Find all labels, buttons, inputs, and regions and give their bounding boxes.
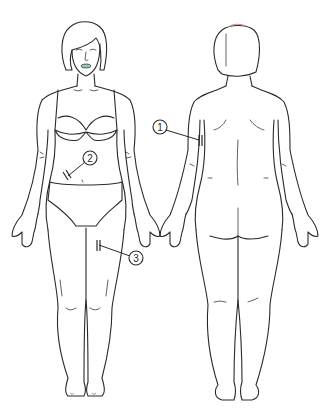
front-leg-left [48, 228, 86, 396]
back-elbow-marks [190, 164, 286, 166]
callout-2-number: 2 [87, 153, 93, 164]
back-knee-left [214, 301, 226, 302]
front-elbow-left [40, 152, 44, 158]
front-leg-right [86, 230, 124, 396]
back-neck [226, 76, 252, 86]
back-figure [160, 24, 318, 400]
injection-site-diagram: 1 2 3 [0, 0, 327, 417]
front-toes-left [70, 393, 74, 395]
front-knee-right [90, 308, 100, 310]
callout-2: 2 [63, 151, 97, 180]
back-spine [237, 140, 238, 185]
back-leg-right [238, 230, 282, 400]
back-shoulder-blade-left [214, 120, 226, 130]
front-figure [12, 22, 160, 396]
front-nose [85, 52, 88, 61]
back-body-right [252, 86, 318, 247]
front-thigh-contour [60, 280, 108, 296]
back-leg-left [196, 230, 238, 400]
callout-3-number: 3 [133, 253, 139, 264]
front-elbow-right [126, 152, 131, 158]
front-toes-right [92, 393, 96, 395]
front-bra [55, 90, 117, 141]
injection-marker-2-icon [63, 170, 71, 180]
front-underwear [48, 182, 122, 226]
front-navel [82, 180, 83, 182]
injection-marker-1-icon [199, 135, 202, 146]
back-knee-right [248, 298, 258, 302]
back-hair [214, 26, 260, 77]
front-knee-left [66, 308, 76, 310]
callout-3-leader [99, 245, 130, 256]
front-eye-right [90, 49, 96, 50]
callout-2-leader [68, 162, 85, 176]
front-eye-left [76, 49, 82, 50]
back-buttocks [210, 236, 268, 239]
injection-marker-3-icon [97, 240, 100, 251]
front-clavicle [74, 90, 98, 91]
back-shoulder-blade-right [250, 120, 264, 130]
callout-1-number: 1 [157, 122, 163, 133]
callout-1-leader [166, 130, 199, 140]
back-body-left [160, 86, 226, 247]
front-lips [81, 64, 91, 68]
callout-1: 1 [153, 120, 202, 146]
